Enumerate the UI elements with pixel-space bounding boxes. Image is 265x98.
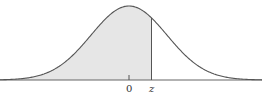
z-label: z	[148, 83, 155, 94]
zero-label: 0	[126, 83, 132, 94]
shaded-area	[0, 6, 152, 80]
normal-curve-diagram: 0 z	[0, 0, 265, 98]
